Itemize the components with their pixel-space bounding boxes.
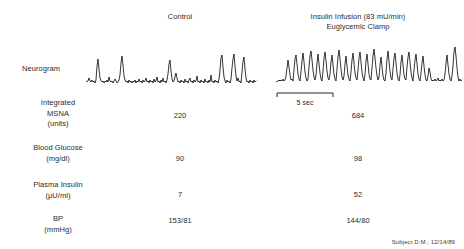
value-msna-insulin: 684 — [318, 111, 398, 120]
subject-caption: Subject D.M.; 12/14/89 — [392, 239, 455, 245]
neurogram-insulin-polyline — [276, 47, 462, 82]
neurogram-trace-control — [86, 52, 258, 88]
row-label-msna-line1: Integrated — [22, 98, 94, 109]
column-header-insulin-line2: Euglycemic Clamp — [288, 22, 428, 32]
row-label-msna-line3: (units) — [22, 119, 94, 130]
row-label-glucose-line1: Blood Glucose — [18, 143, 98, 154]
row-label-neurogram: Neurogram — [22, 64, 94, 75]
row-label-blood-glucose: Blood Glucose (mg/dl) — [18, 143, 98, 164]
row-label-plasma-insulin-line1: Plasma Insulin — [18, 180, 98, 191]
column-header-control: Control — [130, 12, 230, 22]
column-header-insulin-line1: Insulin Infusion (83 mU/min) — [288, 12, 428, 22]
row-label-msna-line2: MSNA — [22, 109, 94, 120]
row-label-bp-line1: BP — [22, 214, 94, 225]
value-plasma-insulin-insulin: 52 — [318, 190, 398, 199]
neurogram-control-polyline — [86, 54, 256, 83]
neurogram-trace-control-svg — [86, 52, 258, 88]
value-plasma-insulin-control: 7 — [140, 190, 220, 199]
scale-bar-label: 5 sec — [276, 99, 334, 106]
row-label-glucose-line2: (mg/dl) — [18, 154, 98, 165]
neurogram-trace-insulin — [276, 46, 464, 88]
value-bp-insulin: 144/80 — [318, 216, 398, 225]
value-glucose-control: 90 — [140, 154, 220, 163]
row-label-integrated-msna: Integrated MSNA (units) — [22, 98, 94, 130]
row-label-plasma-insulin: Plasma Insulin (μU/ml) — [18, 180, 98, 201]
value-msna-control: 220 — [140, 111, 220, 120]
msna-insulin-figure: Control Insulin Infusion (83 mU/min) Eug… — [0, 0, 464, 249]
neurogram-trace-insulin-svg — [276, 46, 464, 88]
row-label-bp-line2: (mmHg) — [22, 225, 94, 236]
row-label-blood-pressure: BP (mmHg) — [22, 214, 94, 235]
value-bp-control: 153/81 — [140, 216, 220, 225]
scale-bar-svg — [276, 92, 334, 98]
value-glucose-insulin: 98 — [318, 154, 398, 163]
column-header-insulin: Insulin Infusion (83 mU/min) Euglycemic … — [288, 12, 428, 32]
scale-bar: 5 sec — [276, 92, 334, 106]
row-label-plasma-insulin-line2: (μU/ml) — [18, 191, 98, 202]
